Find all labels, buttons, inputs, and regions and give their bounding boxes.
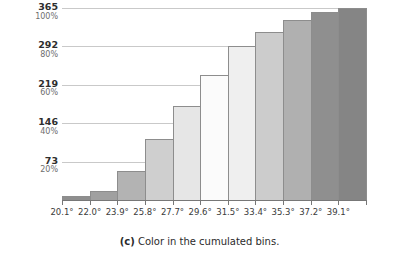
x-axis-tick bbox=[117, 200, 118, 205]
y-tick-count: 146 bbox=[18, 117, 58, 127]
bar bbox=[228, 46, 257, 200]
y-tick-count: 73 bbox=[18, 156, 58, 166]
figure-cumulated-bins: (c) Color in the cumulated bins. 7320%14… bbox=[0, 0, 399, 266]
bar bbox=[62, 196, 91, 200]
bar bbox=[173, 106, 202, 200]
y-axis-tick-label: 365100% bbox=[18, 2, 58, 21]
bar bbox=[90, 191, 119, 200]
bar bbox=[311, 12, 340, 200]
caption-text: Color in the cumulated bins. bbox=[135, 236, 280, 247]
x-axis-tick bbox=[311, 200, 312, 205]
bar bbox=[145, 139, 174, 200]
bar-series bbox=[62, 8, 366, 200]
y-tick-percent: 100% bbox=[18, 13, 58, 21]
bar bbox=[338, 8, 367, 200]
y-axis-tick-label: 14640% bbox=[18, 117, 58, 136]
bar bbox=[255, 32, 284, 200]
x-axis-tick bbox=[90, 200, 91, 205]
x-axis-tick bbox=[228, 200, 229, 205]
figure-caption: (c) Color in the cumulated bins. bbox=[0, 236, 399, 247]
y-tick-percent: 60% bbox=[18, 89, 58, 97]
y-tick-count: 292 bbox=[18, 40, 58, 50]
y-axis-tick-label: 21960% bbox=[18, 79, 58, 98]
x-axis-line bbox=[62, 200, 366, 201]
x-axis-tick bbox=[62, 200, 63, 205]
x-axis-tick bbox=[338, 200, 339, 205]
bar bbox=[117, 171, 146, 200]
x-axis-tick bbox=[145, 200, 146, 205]
x-axis-tick bbox=[255, 200, 256, 205]
bar bbox=[200, 75, 229, 200]
y-tick-percent: 20% bbox=[18, 166, 58, 174]
x-axis-tick bbox=[200, 200, 201, 205]
y-tick-percent: 40% bbox=[18, 128, 58, 136]
caption-label: (c) bbox=[120, 236, 135, 247]
x-axis-tick-label: 39.1° bbox=[318, 207, 358, 217]
y-tick-count: 365 bbox=[18, 2, 58, 12]
x-axis-tick bbox=[283, 200, 284, 205]
bar bbox=[283, 20, 312, 200]
x-axis-tick bbox=[173, 200, 174, 205]
y-tick-percent: 80% bbox=[18, 51, 58, 59]
y-axis-tick-label: 7320% bbox=[18, 156, 58, 175]
y-tick-count: 219 bbox=[18, 79, 58, 89]
x-axis-tick bbox=[366, 200, 367, 205]
y-axis-tick-label: 29280% bbox=[18, 40, 58, 59]
